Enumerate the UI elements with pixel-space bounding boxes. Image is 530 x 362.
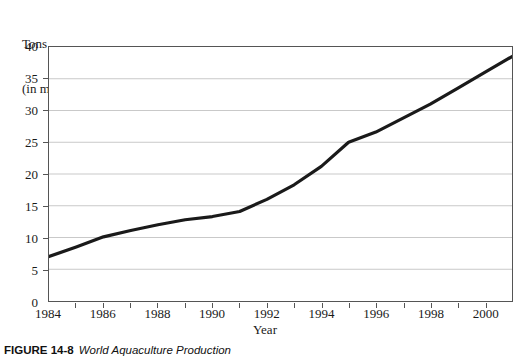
- data-line-world-aquaculture-production: [49, 57, 512, 257]
- plot-area: [48, 46, 513, 302]
- x-tick-label: 2000: [473, 307, 499, 321]
- x-tick-label: 1986: [90, 307, 116, 321]
- x-tick-label: 1992: [254, 307, 280, 321]
- y-tick-label: 20: [25, 168, 38, 181]
- x-tick-mark: [75, 303, 76, 308]
- x-tick-label: 1994: [309, 307, 335, 321]
- y-tick-label: 15: [25, 200, 38, 213]
- x-tick-mark: [349, 303, 350, 308]
- x-tick-mark: [404, 303, 405, 308]
- x-tick-label: 1998: [418, 307, 444, 321]
- x-axis-title: Year: [0, 322, 530, 338]
- x-tick-mark: [458, 303, 459, 308]
- y-tick-label: 30: [25, 104, 38, 117]
- x-tick-label: 1996: [363, 307, 389, 321]
- figure-caption-label: FIGURE 14-8: [4, 344, 74, 356]
- chart-plot: [49, 47, 512, 301]
- x-tick-label: 1990: [199, 307, 225, 321]
- x-tick-label: 1984: [35, 307, 61, 321]
- y-tick-label: 40: [25, 40, 38, 53]
- y-tick-label: 5: [32, 264, 39, 277]
- x-tick-label: 1988: [144, 307, 170, 321]
- x-tick-mark: [294, 303, 295, 308]
- figure-caption-title: World Aquaculture Production: [79, 344, 231, 356]
- y-tick-label: 25: [25, 136, 38, 149]
- y-tick-label: 35: [25, 72, 38, 85]
- figure-caption: FIGURE 14-8World Aquaculture Production: [4, 343, 526, 357]
- x-tick-mark: [185, 303, 186, 308]
- x-tick-mark: [130, 303, 131, 308]
- x-tick-mark: [239, 303, 240, 308]
- figure-container: Tons (in millions) 0510152025303540 1984…: [0, 0, 530, 362]
- y-tick-label: 10: [25, 232, 38, 245]
